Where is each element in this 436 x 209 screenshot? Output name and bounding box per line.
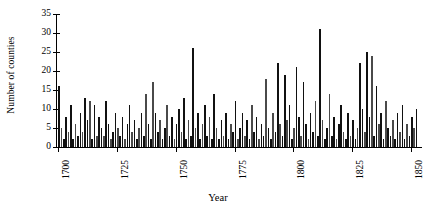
bar	[345, 139, 347, 147]
y-tick-label: 35	[29, 9, 51, 19]
bar	[105, 101, 107, 147]
bar	[89, 101, 91, 147]
y-tick-label: 0	[29, 142, 51, 152]
bar	[277, 63, 279, 147]
bar	[87, 120, 89, 147]
bar	[312, 132, 314, 147]
bar	[378, 124, 380, 147]
bar	[336, 139, 338, 147]
bar	[404, 139, 406, 147]
bar	[409, 136, 411, 147]
bar	[253, 132, 255, 147]
bar	[202, 124, 204, 147]
bar	[303, 82, 305, 147]
bar	[68, 132, 70, 147]
bar	[256, 117, 258, 147]
bar	[343, 132, 345, 147]
bar	[148, 124, 150, 147]
bar	[141, 113, 143, 147]
bar	[192, 48, 194, 147]
bar	[174, 139, 176, 147]
bar	[308, 139, 310, 147]
plot-area	[56, 14, 422, 147]
bar	[350, 136, 352, 147]
bar	[322, 120, 324, 147]
bar	[279, 124, 281, 147]
bar	[195, 128, 197, 147]
bar	[397, 113, 399, 147]
bar	[119, 136, 121, 147]
bar	[72, 139, 74, 147]
bar	[223, 136, 225, 147]
x-tick-mark	[235, 147, 236, 152]
bar	[246, 120, 248, 147]
y-tick-label: 10	[29, 104, 51, 114]
bar	[282, 136, 284, 147]
bar	[134, 120, 136, 147]
bar	[366, 52, 368, 147]
bar	[376, 86, 378, 147]
bar	[190, 136, 192, 147]
bar	[385, 101, 387, 147]
bar	[296, 67, 298, 147]
bar	[242, 113, 244, 147]
bar	[171, 117, 173, 147]
bar	[94, 105, 96, 147]
bar	[284, 75, 286, 147]
bar	[84, 98, 86, 147]
bar	[108, 124, 110, 147]
bar	[218, 139, 220, 147]
bar	[211, 139, 213, 147]
bar	[347, 113, 349, 147]
bar	[324, 139, 326, 147]
bar	[91, 139, 93, 147]
bar	[169, 136, 171, 147]
bar	[162, 139, 164, 147]
bar	[221, 120, 223, 147]
x-axis-title: Year	[0, 192, 436, 203]
bar	[127, 124, 129, 147]
bar	[117, 128, 119, 147]
bar	[411, 117, 413, 147]
bar	[103, 136, 105, 147]
x-tick-label: 1800	[297, 160, 307, 179]
bar	[209, 117, 211, 147]
bar	[176, 124, 178, 147]
bar	[413, 128, 415, 147]
x-tick-mark	[352, 147, 353, 152]
bar	[326, 128, 328, 147]
bar	[265, 79, 267, 147]
bar	[289, 105, 291, 147]
y-tick-label: 20	[29, 66, 51, 76]
bar	[213, 94, 215, 147]
bar	[329, 94, 331, 147]
bar	[61, 128, 63, 147]
bar	[390, 136, 392, 147]
bar	[394, 139, 396, 147]
bar	[70, 105, 72, 147]
bar	[293, 128, 295, 147]
bar	[124, 139, 126, 147]
bar	[77, 136, 79, 147]
bar	[129, 105, 131, 147]
bar	[65, 117, 67, 147]
bar	[416, 109, 418, 147]
bar	[392, 120, 394, 147]
bar	[340, 105, 342, 147]
bar	[263, 136, 265, 147]
bar	[331, 136, 333, 147]
x-tick-label: 1725	[121, 160, 131, 179]
bar	[206, 136, 208, 147]
bar	[143, 136, 145, 147]
bar	[75, 124, 77, 147]
bar	[387, 128, 389, 147]
bar	[305, 124, 307, 147]
bar	[80, 113, 82, 147]
bar	[315, 101, 317, 147]
x-tick-label: 1750	[180, 160, 190, 179]
x-tick-mark	[411, 147, 412, 152]
bar	[157, 132, 159, 147]
bar	[136, 139, 138, 147]
x-tick-label: 1825	[356, 160, 366, 179]
bar	[300, 136, 302, 147]
